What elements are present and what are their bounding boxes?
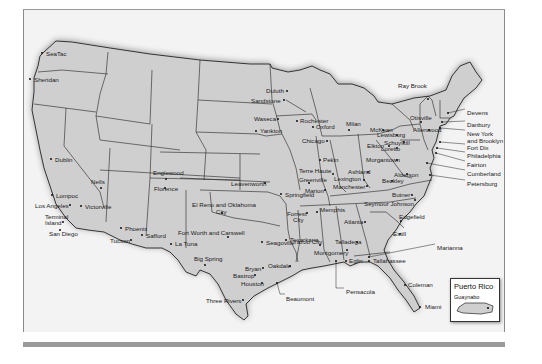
- facility-label: Fort Dix: [467, 144, 489, 151]
- facility-label: Sheridan: [34, 76, 59, 83]
- facility-label: Pekin: [323, 156, 338, 163]
- facility-label: Montgomery: [314, 249, 348, 256]
- facility-label: Butner: [392, 191, 410, 198]
- facility-label: Los Angeles: [35, 202, 69, 209]
- facility-label: Pensacola: [346, 288, 375, 295]
- facility-label: Cumberland: [467, 170, 501, 177]
- facility-label: Bryan: [245, 265, 261, 272]
- puerto-rico-shape: [451, 279, 499, 321]
- facility-label: Safford: [146, 232, 166, 239]
- facility-label: Greenville: [299, 176, 327, 183]
- facility-label: Edgefield: [399, 213, 425, 220]
- facility-label: Waseca: [254, 115, 276, 122]
- facility-label: Yazoo City: [293, 238, 322, 245]
- facility-label: Miami: [425, 303, 442, 310]
- facility-label: City: [293, 216, 304, 223]
- facility-label: Morgantown: [366, 156, 400, 163]
- facility-label: Lompoc: [56, 192, 78, 199]
- facility-label: Beckley: [382, 177, 404, 184]
- facility-label: Tallahassee: [373, 257, 406, 264]
- facility-label: Island: [45, 219, 62, 226]
- facility-label: Victorville: [85, 203, 111, 210]
- facility-label: Danbury: [467, 121, 490, 128]
- facility-label: Lewisburg: [377, 131, 405, 138]
- facility-label: Milan: [346, 120, 361, 127]
- facility-label: City: [216, 208, 227, 215]
- facility-label: Lexington: [334, 175, 361, 182]
- facility-label: Memphis: [320, 206, 345, 213]
- facility-label: Houston: [241, 280, 264, 287]
- facility-label: Big Spring: [194, 255, 223, 262]
- puerto-rico-inset: Puerto Rico Guaynabo: [450, 278, 500, 322]
- facility-label: Otisville: [410, 114, 432, 121]
- facility-label: Eglin: [349, 257, 363, 264]
- facility-label: Marion: [305, 187, 324, 194]
- facility-label: Bastrop: [233, 272, 254, 279]
- facility-label: San Diego: [49, 230, 78, 237]
- facility-label: Phoenix: [125, 225, 147, 232]
- facility-label: Philadelphia: [467, 152, 501, 159]
- facility-label: Terre Haute: [299, 167, 331, 174]
- facility-label: Chicago: [302, 137, 325, 144]
- facility-label: Manchester: [333, 183, 365, 190]
- facility-label: Florence: [154, 185, 178, 192]
- facility-label: Petersburg: [467, 180, 497, 187]
- facility-label: La Tuna: [175, 240, 197, 247]
- facility-label: Duluth: [266, 87, 284, 94]
- facility-label: Oakdale: [268, 262, 291, 269]
- facility-label: Sandstone: [251, 97, 281, 104]
- facility-label: Beaumont: [286, 295, 314, 302]
- facility-label: Dublin: [55, 156, 73, 163]
- facility-label: Three Rivers: [206, 297, 241, 304]
- facility-label: Allenwood: [413, 126, 442, 133]
- facility-label: El Reno and Oklahoma: [192, 201, 256, 208]
- facility-label: New York: [467, 130, 493, 137]
- facility-label: Leavenworth: [231, 180, 266, 187]
- facility-label: Estill: [393, 230, 406, 237]
- facility-label: Oxford: [316, 123, 335, 130]
- map-frame-bottom-bar: [23, 342, 505, 347]
- facility-label: Fairton: [467, 161, 486, 168]
- facility-label: and Brooklyn: [467, 137, 503, 144]
- facility-label: Englewood: [153, 169, 184, 176]
- facility-label: Yankton: [260, 127, 282, 134]
- facility-label: Marianna: [437, 244, 463, 251]
- facility-label: SeaTac: [46, 50, 67, 57]
- facility-label: Devens: [467, 109, 488, 116]
- facility-label: Atlanta: [344, 218, 363, 225]
- facility-label: Nells: [91, 178, 105, 185]
- facility-label: Fort Worth and Carswell: [178, 229, 245, 236]
- facility-label: Talladega: [335, 238, 362, 245]
- facility-label: Loretto: [381, 145, 400, 152]
- facility-label: Coleman: [408, 281, 433, 288]
- facility-label: Ashland: [348, 168, 370, 175]
- facility-label: Seymour Johnson: [364, 200, 414, 207]
- facility-label: Ray Brook: [398, 82, 427, 89]
- facility-label: Tucson: [110, 237, 130, 244]
